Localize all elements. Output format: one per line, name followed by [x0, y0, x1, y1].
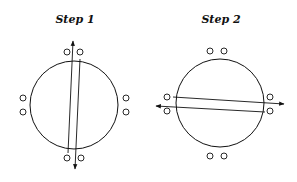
step-1-down-arrow — [75, 59, 80, 169]
step-1-up-arrow — [68, 41, 73, 153]
step-2-markers — [164, 48, 273, 159]
step-1-title: Step 1 — [55, 13, 94, 26]
diagram-canvas: Step 1 Step 2 — [0, 0, 297, 182]
step-2-left-arrow — [156, 106, 265, 112]
step-2-panel: Step 2 — [156, 13, 284, 159]
step-1-ring — [30, 61, 118, 149]
step-1-panel: Step 1 — [20, 13, 129, 169]
step-2-ring — [176, 59, 264, 147]
step-2-title: Step 2 — [201, 13, 241, 26]
step-1-markers — [20, 49, 129, 161]
